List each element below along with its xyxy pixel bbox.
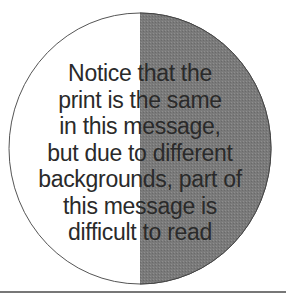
message-line: this message is <box>0 193 280 220</box>
message-line: in this message, <box>0 113 280 140</box>
message-line: backgrounds, part of <box>0 166 280 193</box>
message-line: print is the same <box>0 87 280 114</box>
message-line: but due to different <box>0 140 280 167</box>
message-line: difficult to read <box>0 219 280 246</box>
message-text: Notice that the print is the same in thi… <box>0 60 280 246</box>
message-line: Notice that the <box>0 60 280 87</box>
